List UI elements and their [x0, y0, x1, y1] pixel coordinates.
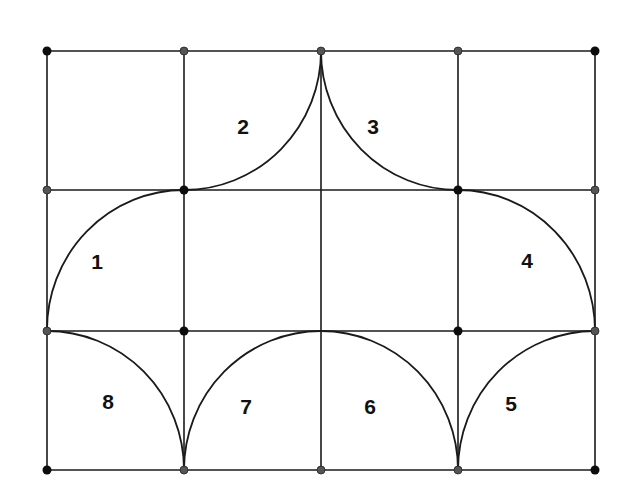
grid-point [591, 186, 599, 194]
grid-point [591, 466, 600, 475]
arc-region-1 [47, 190, 184, 331]
arc-region-6 [321, 331, 458, 470]
grid-point [43, 47, 52, 56]
region-label-7: 7 [240, 395, 252, 418]
grid-point [180, 47, 188, 55]
region-label-3: 3 [367, 115, 379, 138]
grid-point [43, 327, 51, 335]
region-label-5: 5 [505, 392, 517, 415]
grid-point [317, 47, 325, 55]
grid-point [317, 466, 325, 474]
grid-point [180, 466, 188, 474]
grid-point [454, 186, 463, 195]
arc-region-7 [184, 331, 321, 470]
region-label-2: 2 [237, 115, 249, 138]
grid-point [43, 466, 52, 475]
region-label-6: 6 [364, 395, 376, 418]
grid-point [591, 47, 600, 56]
region-label-4: 4 [521, 249, 533, 272]
grid-point [454, 327, 463, 336]
grid-point [454, 47, 462, 55]
region-label-1: 1 [91, 250, 103, 273]
arc-region-3 [321, 51, 458, 190]
grid-point [180, 186, 189, 195]
arc-region-8 [47, 331, 184, 470]
grid-point [454, 466, 462, 474]
region-labels: 1 2 3 4 5 6 7 8 [91, 115, 533, 418]
grid-point [591, 327, 599, 335]
grid-point [43, 186, 51, 194]
grid-point [180, 327, 189, 336]
arc-region-5 [458, 331, 595, 470]
grid-diagram: 1 2 3 4 5 6 7 8 [0, 0, 628, 504]
arc-region-2 [184, 51, 321, 190]
region-label-8: 8 [102, 390, 114, 413]
